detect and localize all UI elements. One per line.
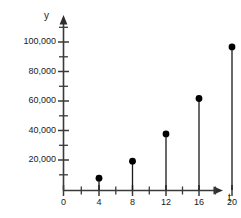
y-axis-arrowhead [60, 15, 68, 25]
x-tick-label-16: 16 [194, 197, 204, 207]
data-point-t16 [196, 95, 203, 102]
data-point-t12 [163, 131, 170, 138]
y-tick-label-100000: 100,000 [23, 36, 56, 46]
x-tick-label-8: 8 [130, 197, 135, 207]
data-point-t4 [96, 175, 103, 182]
chart-plot-area: 100,000 80,000 60,000 40,000 20,000 0 4 … [0, 0, 241, 218]
y-tick-label-20000: 20,000 [28, 154, 56, 164]
x-axis-label: t [228, 192, 231, 203]
data-point-t20 [229, 44, 236, 51]
data-point-t8 [129, 158, 136, 165]
y-tick-label-60000: 60,000 [28, 95, 56, 105]
x-tick-label-12: 12 [161, 197, 171, 207]
exponential-growth-chart: 100,000 80,000 60,000 40,000 20,000 0 4 … [0, 0, 241, 218]
x-tick-label-0: 0 [61, 197, 66, 207]
y-axis-label: y [44, 10, 49, 21]
y-tick-label-80000: 80,000 [28, 66, 56, 76]
y-tick-label-40000: 40,000 [28, 125, 56, 135]
x-tick-label-4: 4 [96, 197, 101, 207]
